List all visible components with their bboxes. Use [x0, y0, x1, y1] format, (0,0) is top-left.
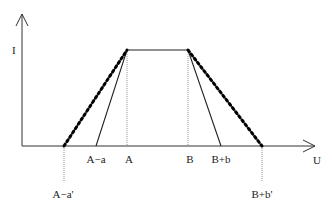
outer-trapezoid-right — [188, 50, 262, 146]
tick-label-b: B — [186, 153, 193, 165]
tick-label-a-minus-a: A−a — [86, 153, 105, 165]
y-axis-label: I — [12, 44, 16, 56]
outer-trapezoid-left — [64, 50, 127, 146]
x-axis-label: U — [313, 154, 321, 166]
tick-label-b-plus-b: B+b — [211, 153, 231, 165]
tick-label-a: A — [125, 153, 133, 165]
inner-trapezoid — [96, 50, 221, 146]
tick-label-b-plus-b-prime: B+b' — [251, 188, 272, 200]
membership-diagram: I U A−a A B B+b A−a' B+b' — [0, 0, 332, 210]
tick-label-a-minus-a-prime: A−a' — [52, 188, 73, 200]
